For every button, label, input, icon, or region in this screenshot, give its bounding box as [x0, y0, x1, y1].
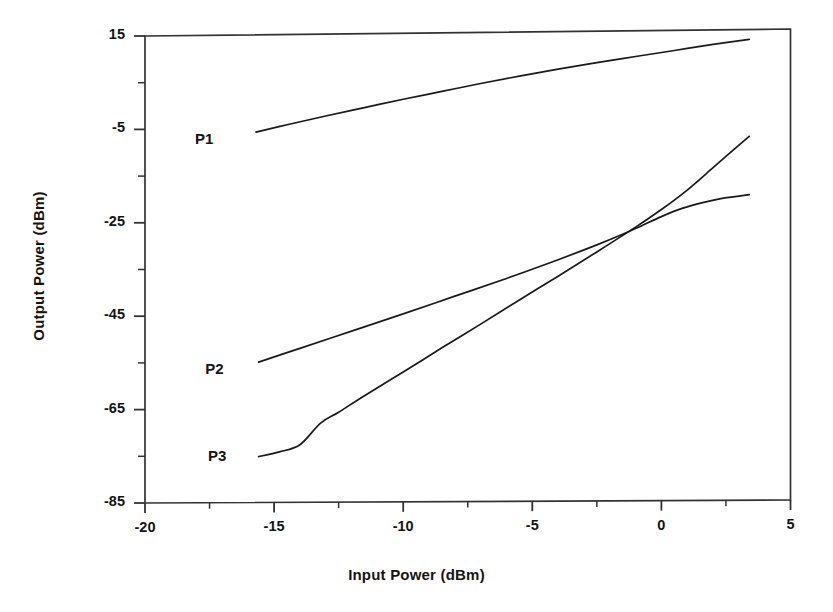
y-axis-title-wrapper: Output Power (dBm)	[30, 116, 48, 416]
curve-p3	[259, 136, 750, 456]
x-axis-title: Input Power (dBm)	[348, 566, 485, 583]
x-tick-label: -15	[246, 518, 302, 534]
x-tick-label: 0	[633, 517, 689, 533]
x-tick-label: -10	[375, 518, 431, 534]
x-tick-label: 5	[763, 516, 819, 532]
curve-annotation-p2: P2	[205, 360, 223, 377]
axis-ticks	[134, 36, 791, 513]
x-tick-label: -5	[504, 517, 560, 533]
y-tick-label: 15	[69, 26, 125, 42]
y-axis-title: Output Power (dBm)	[30, 191, 47, 340]
plot-frame	[145, 29, 791, 503]
curve-annotation-p1: P1	[195, 130, 213, 147]
curve-annotation-p3: P3	[208, 447, 226, 464]
y-tick-label: -25	[69, 213, 125, 229]
y-tick-label: -85	[69, 493, 125, 509]
y-tick-label: -65	[69, 400, 125, 416]
curve-p1	[256, 39, 749, 132]
data-curves	[256, 39, 749, 456]
y-tick-label: -45	[69, 306, 125, 322]
chart-figure: Output Power (dBm) Input Power (dBm) 15-…	[0, 0, 833, 612]
curve-p2	[259, 195, 750, 362]
y-tick-label: -5	[69, 119, 125, 135]
x-tick-label: -20	[117, 519, 173, 535]
x-axis-title-wrapper: Input Power (dBm)	[0, 566, 833, 584]
